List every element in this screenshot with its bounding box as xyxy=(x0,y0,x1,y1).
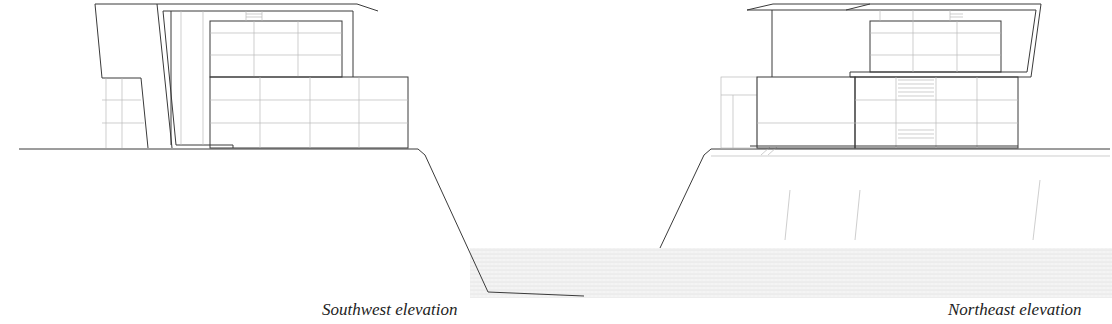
ground-hatch xyxy=(470,248,1112,298)
northeast-ground-line xyxy=(660,149,1110,248)
northeast-elevation-caption: Northeast elevation xyxy=(948,300,1082,320)
northeast-elevation xyxy=(660,4,1110,248)
southwest-elevation-caption: Southwest elevation xyxy=(322,300,458,320)
elevation-drawings xyxy=(0,0,1112,324)
